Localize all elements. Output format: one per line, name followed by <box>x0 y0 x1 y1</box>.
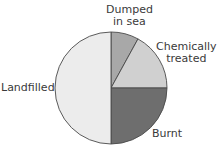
slice-landfilled <box>55 32 111 144</box>
label-dumped-in-sea: Dumped in sea <box>106 4 153 28</box>
label-dumped-line2: in sea <box>106 16 153 28</box>
label-burnt: Burnt <box>152 128 182 140</box>
label-chemically-treated: Chemically treated <box>156 41 217 65</box>
pie-chart: Dumped in sea Chemically treated Landfil… <box>0 0 220 152</box>
label-chemical-line2: treated <box>156 53 217 65</box>
label-landfilled: Landfilled <box>1 82 55 94</box>
